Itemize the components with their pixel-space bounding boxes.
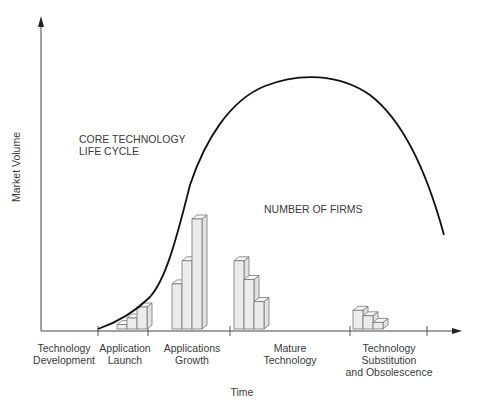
phase-labels: Technology Development Application Launc…	[33, 342, 433, 378]
life-cycle-diagram: Market Volume Time CORE TECHNOLOGY LIFE …	[0, 0, 477, 406]
firm-bar	[192, 215, 207, 329]
phase-label-technology-development-line-2: Development	[33, 354, 95, 366]
phase-label-applications-growth-line-1: Applications	[164, 342, 221, 354]
number-of-firms-label: NUMBER OF FIRMS	[264, 203, 363, 215]
curve-label-line-2: LIFE CYCLE	[79, 145, 139, 157]
curve-label-line-1: CORE TECHNOLOGY	[79, 133, 186, 145]
phase-label-substitution-line-2: Substitution	[362, 354, 417, 366]
phase-label-applications-growth-line-2: Growth	[175, 354, 209, 366]
phase-label-application-launch-line-1: Application	[99, 342, 151, 354]
phase-label-substitution-line-1: Technology	[362, 342, 416, 354]
y-axis-arrow-icon	[38, 16, 44, 27]
phase-label-substitution-line-3: and Obsolescence	[346, 366, 433, 378]
firm-bars	[117, 215, 388, 329]
y-axis-label: Market Volume	[10, 132, 22, 202]
firm-bar	[254, 298, 269, 330]
x-axis-arrow-icon	[452, 328, 462, 334]
x-axis-label: Time	[231, 386, 254, 398]
phase-label-mature-technology-line-1: Mature	[274, 342, 307, 354]
phase-label-application-launch-line-2: Launch	[108, 354, 143, 366]
phase-label-mature-technology-line-2: Technology	[263, 354, 317, 366]
phase-label-technology-development-line-1: Technology	[37, 342, 91, 354]
